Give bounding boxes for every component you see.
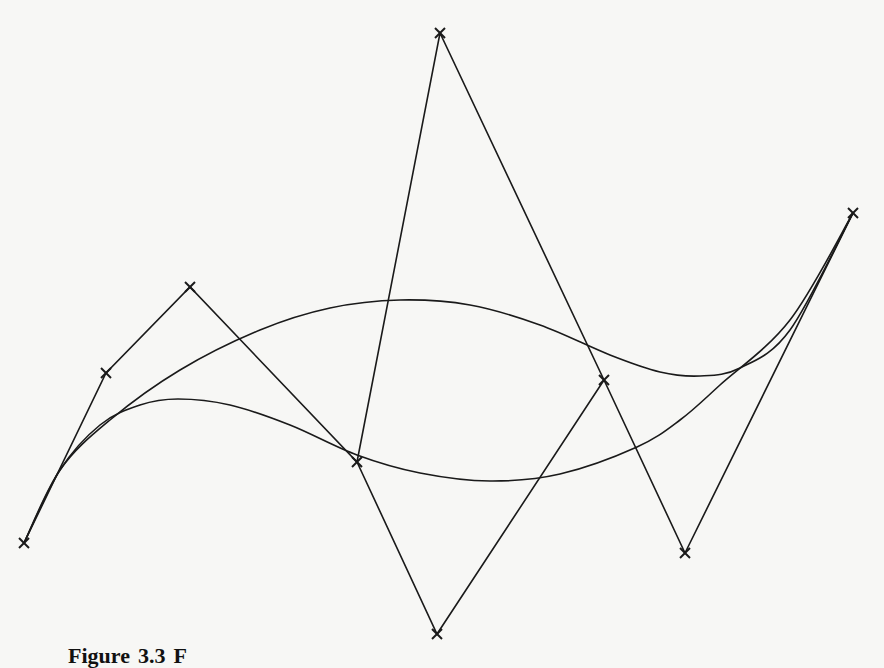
control-point-x-icon [185,282,195,292]
polygon-a [24,33,853,553]
control-point-x-icon [680,548,690,558]
control-point-x-icon [599,375,609,385]
caption-number: 3.3 [138,643,166,668]
control-point-x-icon [19,538,29,548]
control-point-x-icon [101,368,111,378]
control-polygons [24,33,853,634]
control-point-x-icon [848,208,858,218]
control-point-x-icon [432,629,442,639]
figure-caption: Figure3.3F [68,645,187,667]
polygon-b [357,380,604,634]
caption-text: F [173,643,186,668]
lower-curve [24,213,853,543]
caption-label: Figure [68,643,130,668]
spline-curves [24,213,853,543]
